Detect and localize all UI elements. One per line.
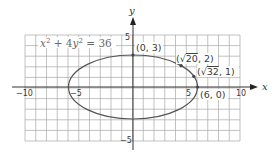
ellipse-graph: x2 + 4y2 = 36 y x −10 −5 5 10 5 −5 (0, 3… [0,0,276,157]
point-0-3 [131,53,134,56]
y-axis-label: y [128,5,135,16]
tick-x-10: 10 [236,89,246,98]
tick-y-neg5: −5 [120,136,132,145]
point-sqrt20-2 [180,64,183,67]
tick-x-neg10: −10 [16,89,33,98]
y-axis-arrow-icon [130,17,136,25]
x-axis-arrow-icon [250,84,258,90]
equation-label: x2 + 4y2 = 36 [40,37,112,49]
tick-y-5: 5 [125,33,130,42]
tick-x-5: 5 [186,89,191,98]
point-label-6-0: (6, 0) [200,89,226,100]
x-axis-label: x [262,81,268,92]
point-sqrt32-1 [192,75,195,78]
point-6-0 [196,85,199,88]
point-label-sqrt32-1: (√32, 1) [197,66,235,77]
point-label-0-3: (0, 3) [136,42,162,53]
point-label-sqrt20-2: (√20, 2) [176,53,214,64]
